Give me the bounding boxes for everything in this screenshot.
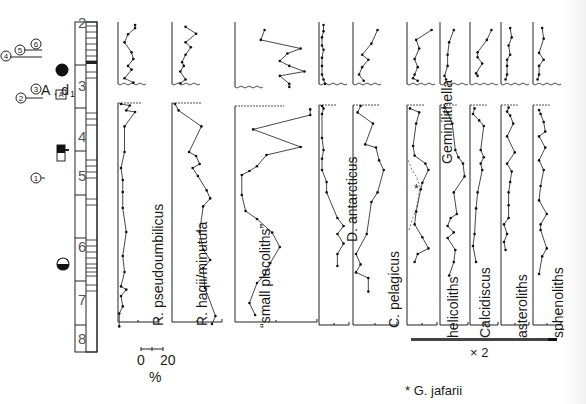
data-point-sphenoliths (542, 58, 545, 61)
data-point-helicoliths (452, 231, 455, 234)
data-point-c-pelagicus (372, 122, 375, 125)
label-d-antarcticus: D. antarcticus (344, 156, 360, 242)
data-point-r-haqii-minutula (195, 155, 198, 158)
data-point-helicoliths (462, 162, 465, 165)
data-point-r-pseudoumbilicus (118, 312, 121, 315)
data-point-calcidiscus (478, 119, 481, 122)
data-point-c-pelagicus (359, 263, 362, 266)
data-point-helicoliths (446, 65, 449, 68)
data-point-asteroliths (504, 249, 507, 252)
data-point-sphenoliths (542, 121, 545, 124)
data-point-helicoliths (456, 213, 459, 216)
data-point-asteroliths (509, 53, 512, 56)
data-point-r-pseudoumbilicus (118, 325, 121, 328)
data-point-small-placoliths (303, 70, 306, 73)
data-point-calcidiscus (476, 191, 479, 194)
marker-label-6: 6 (34, 40, 39, 49)
data-point-r-pseudoumbilicus (127, 33, 130, 36)
data-point-small-placoliths (288, 83, 291, 86)
scale-bar-zero: 0 (137, 352, 145, 368)
wavy-base-sphenoliths (533, 83, 561, 85)
data-point-sphenoliths (542, 169, 545, 172)
data-point-r-haqii-minutula (198, 163, 201, 166)
label-r-pseudoumbilicus: R. pseudoumbilicus (150, 136, 166, 326)
data-point-sphenoliths (545, 213, 548, 216)
data-point-r-haqii-minutula (197, 175, 200, 178)
data-point-geminilithella (415, 210, 418, 213)
data-point-r-pseudoumbilicus (123, 151, 126, 154)
data-point-d-antarcticus (321, 44, 324, 47)
data-point-sphenoliths (538, 135, 541, 138)
label-geminilithella: Geminilithella (439, 80, 455, 164)
data-point-c-pelagicus (376, 191, 379, 194)
age-datum-label: A . d (41, 82, 69, 98)
data-point-r-haqii-minutula (211, 323, 214, 326)
data-point-r-pseudoumbilicus (121, 305, 124, 308)
data-point-calcidiscus (473, 107, 476, 110)
data-point-d-antarcticus (336, 217, 339, 220)
core-column-inner (86, 22, 97, 352)
data-point-asteroliths (510, 170, 513, 173)
data-point-c-pelagicus (367, 290, 370, 293)
data-point-calcidiscus (490, 29, 493, 32)
profile-line-r-haqii-minutula (180, 27, 196, 83)
data-point-calcidiscus (481, 62, 484, 65)
data-point-sphenoliths (538, 159, 541, 162)
data-point-small-placoliths (254, 314, 257, 317)
data-point-asteroliths (503, 241, 506, 244)
data-point-r-pseudoumbilicus (120, 167, 123, 170)
data-point-geminilithella (409, 107, 412, 110)
data-point-calcidiscus (486, 39, 489, 42)
wavy-base-geminilithella (407, 83, 435, 85)
data-point-geminilithella (421, 182, 424, 185)
data-point-geminilithella (413, 58, 416, 61)
data-point-sphenoliths (538, 73, 541, 76)
label-c-pelagicus: C. pelagicus (386, 251, 402, 328)
label-asteroliths: asteroliths (514, 274, 530, 338)
data-point-r-haqii-minutula (174, 103, 177, 106)
data-point-c-pelagicus (358, 73, 361, 76)
data-point-asteroliths (507, 217, 510, 220)
data-point-d-antarcticus (321, 57, 324, 60)
data-point-d-antarcticus (322, 107, 325, 110)
data-point-r-pseudoumbilicus (132, 58, 135, 61)
data-point-calcidiscus (479, 162, 482, 165)
data-point-asteroliths (510, 36, 513, 39)
data-point-geminilithella (413, 73, 416, 76)
data-point-r-pseudoumbilicus (134, 27, 137, 30)
label-helicoliths: helicoliths (445, 277, 461, 338)
data-point-r-pseudoumbilicus (123, 271, 126, 274)
data-point-sphenoliths (541, 255, 544, 258)
data-point-r-pseudoumbilicus (134, 24, 137, 27)
data-point-r-pseudoumbilicus (132, 81, 135, 84)
data-point-small-placoliths (241, 194, 244, 197)
data-point-r-pseudoumbilicus (125, 231, 128, 234)
label-r-haqii-minutula: R. haqii/minutula (194, 222, 210, 326)
data-point-r-haqii-minutula (179, 82, 182, 85)
data-point-sphenoliths (544, 130, 547, 133)
data-point-c-pelagicus (361, 53, 364, 56)
data-point-r-pseudoumbilicus (120, 285, 123, 288)
wavy-base-d-antarcticus (319, 83, 347, 85)
data-point-small-placoliths (299, 47, 302, 50)
data-point-geminilithella (416, 80, 419, 83)
data-point-d-antarcticus (322, 30, 325, 33)
data-point-helicoliths (452, 29, 455, 32)
data-point-helicoliths (463, 175, 466, 178)
profile-line-helicoliths (445, 30, 454, 80)
marker-label-1: 1 (34, 174, 39, 183)
profile-line-d-antarcticus (322, 106, 344, 266)
data-point-d-antarcticus (325, 191, 328, 194)
data-point-small-placoliths (241, 174, 244, 177)
data-point-calcidiscus (473, 233, 476, 236)
data-point-asteroliths (506, 135, 509, 138)
data-point-c-pelagicus (378, 159, 381, 162)
profile-line-small-placoliths (242, 109, 310, 315)
data-point-asteroliths (503, 223, 506, 226)
data-point-c-pelagicus (364, 143, 367, 146)
data-point-d-antarcticus (325, 181, 328, 184)
data-point-asteroliths (507, 106, 510, 109)
data-point-c-pelagicus (367, 277, 370, 280)
data-point-asteroliths (512, 122, 515, 125)
data-point-geminilithella (413, 154, 416, 157)
